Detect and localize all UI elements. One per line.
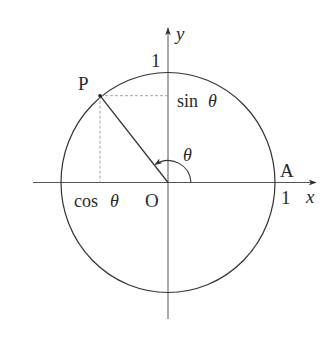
sin-text: sin — [177, 91, 198, 111]
sin-theta-symbol: θ — [208, 91, 217, 111]
cos-theta-symbol: θ — [110, 191, 119, 211]
radius-op-segment — [100, 96, 168, 183]
point-p-label: P — [78, 73, 89, 94]
angle-theta-label: θ — [183, 145, 192, 165]
point-p-dot — [98, 94, 102, 98]
y-unit-label: 1 — [151, 50, 161, 71]
cos-theta-label: cos θ — [74, 191, 119, 211]
x-axis-label: x — [305, 186, 315, 207]
y-axis-label: y — [174, 23, 185, 44]
unit-circle-diagram: y 1 P sin θ θ A 1 x cos θ O — [0, 0, 336, 343]
diagram-canvas: y 1 P sin θ θ A 1 x cos θ O — [0, 0, 336, 343]
point-a-label: A — [280, 160, 294, 181]
x-unit-label: 1 — [281, 187, 291, 208]
sin-theta-label: sin θ — [177, 91, 217, 111]
cos-text: cos — [74, 191, 98, 211]
origin-label: O — [145, 190, 159, 211]
